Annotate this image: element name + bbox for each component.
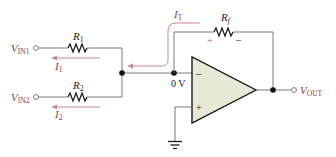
op-amp-triangle-icon	[192, 57, 256, 123]
rf-plus-sign: +	[207, 35, 213, 46]
r2-resistor-icon	[68, 93, 87, 101]
vin2-wire-right	[87, 73, 122, 97]
vout-terminal	[292, 88, 297, 93]
ground-wire	[175, 107, 192, 141]
circuit-svg: VIN1 R1 I1 VIN2 R2 I2 IT Rf + –	[0, 0, 336, 157]
input-1-branch	[34, 44, 122, 73]
ground-icon	[168, 142, 182, 149]
vout-label: VOUT	[300, 84, 323, 98]
vin1-label: VIN1	[11, 42, 30, 56]
rf-resistor-icon	[214, 28, 233, 36]
noninverting-input-sign: +	[196, 102, 202, 113]
r2-label: R2	[72, 79, 84, 93]
vin1-wire-right	[87, 48, 122, 73]
virtual-ground-label: 0 V	[171, 78, 186, 89]
vin1-terminal	[34, 46, 39, 51]
i2-label: I2	[54, 108, 63, 122]
inverting-input-sign: –	[195, 67, 202, 79]
r1-resistor-icon	[68, 44, 87, 52]
vin2-terminal	[34, 95, 39, 100]
output-junction-node	[270, 87, 276, 93]
rf-minus-sign: –	[235, 34, 242, 45]
rf-label: Rf	[220, 11, 231, 25]
summing-junction-node	[119, 70, 125, 76]
summing-amplifier-diagram: VIN1 R1 I1 VIN2 R2 I2 IT Rf + –	[0, 0, 336, 157]
it-arrowhead-icon	[127, 64, 133, 69]
op-amp	[192, 57, 256, 123]
it-label: IT	[173, 8, 183, 22]
i1-label: I1	[54, 60, 63, 74]
r1-label: R1	[72, 30, 84, 44]
it-arrow-line	[131, 23, 200, 66]
vin2-label: VIN2	[11, 91, 30, 105]
